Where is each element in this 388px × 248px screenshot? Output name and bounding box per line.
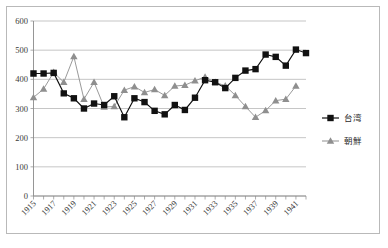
- data-point-marker: [151, 108, 157, 114]
- data-point-marker: [70, 53, 77, 60]
- x-tick-label: 1927: [140, 198, 159, 217]
- x-tick-label: 1925: [120, 198, 139, 217]
- data-point-marker: [162, 111, 168, 117]
- y-tick-label: 200: [15, 133, 28, 143]
- legend-label[interactable]: 台湾: [344, 113, 362, 123]
- data-point-marker: [181, 81, 188, 88]
- y-tick-label: 300: [15, 104, 28, 114]
- x-tick-label: 1935: [221, 198, 240, 217]
- data-point-marker: [182, 107, 188, 113]
- data-point-marker: [151, 86, 158, 93]
- data-point-marker: [293, 46, 299, 52]
- data-point-marker: [121, 114, 127, 120]
- data-point-marker: [141, 99, 147, 105]
- data-point-marker: [192, 95, 198, 101]
- data-point-marker: [242, 67, 248, 73]
- x-tick-label: 1939: [261, 198, 280, 217]
- y-tick-label: 400: [15, 74, 28, 84]
- x-tick-label: 1937: [241, 198, 260, 217]
- x-axis: [34, 196, 307, 200]
- line-chart: 0100200300400500600 19151917191919211923…: [0, 0, 388, 248]
- data-point-marker: [222, 85, 228, 91]
- y-tick-label: 100: [15, 162, 28, 172]
- data-point-marker: [30, 70, 36, 76]
- data-point-marker: [91, 100, 97, 106]
- data-point-marker: [61, 90, 67, 96]
- y-tick-label: 0: [24, 191, 28, 201]
- x-tick-label: 1917: [39, 198, 58, 217]
- legend-square-marker-icon: [327, 115, 333, 121]
- data-point-marker: [111, 103, 118, 110]
- series-line: [34, 57, 296, 118]
- data-point-marker: [80, 95, 87, 102]
- data-point-marker: [40, 85, 47, 92]
- data-point-marker: [81, 105, 87, 111]
- x-tick-label: 1915: [19, 198, 38, 217]
- x-tick-label: 1933: [200, 198, 219, 217]
- data-point-marker: [50, 70, 56, 76]
- legend-label[interactable]: 朝鮮: [344, 136, 362, 146]
- x-tick-label: 1923: [100, 198, 119, 217]
- data-point-marker: [262, 51, 268, 57]
- x-tick-label: 1921: [79, 198, 98, 217]
- y-tick-label: 500: [15, 45, 28, 55]
- data-point-marker: [131, 95, 137, 101]
- data-point-marker: [283, 62, 289, 68]
- data-point-marker: [71, 95, 77, 101]
- data-point-marker: [111, 93, 117, 99]
- data-point-marker: [40, 70, 46, 76]
- x-tick-label: 1929: [160, 198, 179, 217]
- data-point-marker: [252, 66, 258, 72]
- data-point-marker: [273, 54, 279, 60]
- data-point-marker: [232, 75, 238, 81]
- chart-legend: 台湾朝鮮: [322, 113, 362, 146]
- data-point-marker: [303, 50, 309, 56]
- y-tick-label: 600: [15, 16, 28, 26]
- data-point-marker: [212, 79, 218, 85]
- x-tick-label: 1919: [59, 198, 78, 217]
- x-tick-labels: 1915191719191921192319251927192919311933…: [19, 198, 300, 217]
- x-tick-label: 1941: [281, 198, 300, 217]
- x-tick-label: 1931: [180, 198, 199, 217]
- data-point-marker: [101, 102, 107, 108]
- y-tick-labels: 0100200300400500600: [15, 16, 28, 201]
- data-point-marker: [172, 102, 178, 108]
- data-point-marker: [131, 83, 138, 90]
- data-point-marker: [202, 77, 208, 83]
- data-point-marker: [292, 82, 299, 89]
